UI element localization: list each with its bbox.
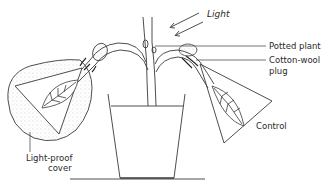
- label-light-proof-cover-2: cover: [48, 163, 72, 173]
- plant-light-experiment-diagram: Light Potted plant Cotton-wool plug Cont…: [0, 0, 325, 184]
- label-light-proof-cover-1: Light-proof: [26, 153, 72, 163]
- label-light: Light: [207, 9, 229, 19]
- right-cotton-wool-plug: [179, 44, 198, 68]
- label-cotton-wool-plug-2: plug: [269, 66, 288, 76]
- label-potted-plant: Potted plant: [269, 41, 321, 51]
- plant-stem: [143, 17, 156, 106]
- label-cotton-wool-plug-1: Cotton-wool: [269, 55, 320, 65]
- label-control: Control: [256, 121, 287, 131]
- light-arrows-icon: [170, 13, 203, 36]
- flower-pot: [108, 94, 185, 178]
